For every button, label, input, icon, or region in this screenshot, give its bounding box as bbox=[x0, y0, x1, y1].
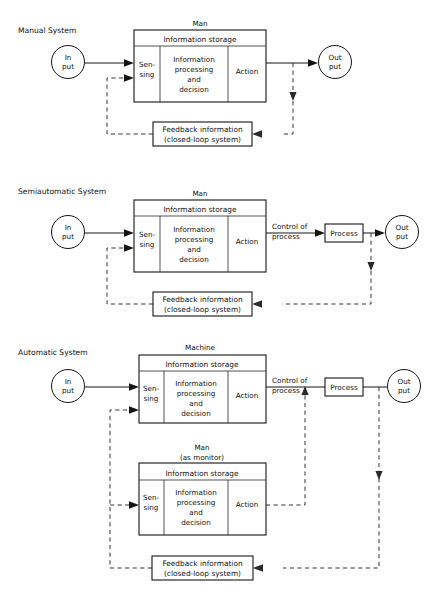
processing-line4-semiautomatic: decision bbox=[179, 255, 209, 264]
owner-label-semiautomatic: Man bbox=[192, 189, 207, 198]
processing-line1-machine-automatic: Information bbox=[175, 379, 217, 388]
action-label-manual: Action bbox=[236, 67, 259, 76]
feedback-line1-manual: Feedback information bbox=[162, 125, 243, 134]
processing-line1-manual: Information bbox=[173, 55, 215, 64]
action-label-semiautomatic: Action bbox=[236, 237, 259, 246]
output-line1-automatic: Out bbox=[397, 377, 410, 386]
sensing-line1-semiautomatic: Sen- bbox=[139, 230, 156, 239]
feedback-line2-semiautomatic: (closed-loop system) bbox=[164, 305, 241, 314]
action-label-monitor-automatic: Action bbox=[236, 500, 259, 509]
sensing-line2-semiautomatic: sing bbox=[140, 240, 155, 249]
input-line2-manual: put bbox=[62, 62, 74, 71]
diagram-canvas: Manual System Man Information storage Se… bbox=[0, 0, 432, 593]
sensing-line1-monitor-automatic: Sen- bbox=[143, 493, 160, 502]
processing-line4-monitor-automatic: decision bbox=[181, 518, 211, 527]
sensing-line2-manual: sing bbox=[140, 70, 155, 79]
storage-label-monitor-automatic: Information storage bbox=[165, 469, 239, 478]
system-title-manual: Manual System bbox=[18, 26, 76, 35]
processing-line4-manual: decision bbox=[179, 85, 209, 94]
processing-line2-machine-automatic: processing bbox=[177, 389, 216, 398]
input-line1-manual: In bbox=[65, 53, 72, 62]
processing-line3-monitor-automatic: and bbox=[189, 508, 203, 517]
output-line2-manual: put bbox=[329, 62, 341, 71]
system-title-semiautomatic: Semiautomatic System bbox=[18, 187, 106, 196]
processing-line3-semiautomatic: and bbox=[187, 245, 201, 254]
input-line2-semiautomatic: put bbox=[62, 232, 74, 241]
process-label-semiautomatic: Process bbox=[330, 229, 358, 238]
control-label-line1-automatic: Control of bbox=[272, 376, 308, 385]
monitor-owner-sub-label-automatic: (as monitor) bbox=[180, 453, 224, 462]
feedback-line1-semiautomatic: Feedback information bbox=[162, 295, 243, 304]
input-line1-automatic: In bbox=[65, 377, 72, 386]
processing-line2-manual: processing bbox=[175, 65, 214, 74]
processing-line1-monitor-automatic: Information bbox=[175, 488, 217, 497]
processing-line4-machine-automatic: decision bbox=[181, 409, 211, 418]
processing-line3-manual: and bbox=[187, 75, 201, 84]
process-label-automatic: Process bbox=[330, 383, 358, 392]
system-title-automatic: Automatic System bbox=[18, 348, 88, 357]
sensing-line2-monitor-automatic: sing bbox=[144, 503, 159, 512]
action-label-machine-automatic: Action bbox=[236, 391, 259, 400]
output-line2-automatic: put bbox=[398, 386, 410, 395]
sensing-line1-machine-automatic: Sen- bbox=[143, 384, 160, 393]
storage-label-machine-automatic: Information storage bbox=[165, 360, 239, 369]
processing-line2-semiautomatic: processing bbox=[175, 235, 214, 244]
feedback-line1-automatic: Feedback information bbox=[162, 559, 243, 568]
processing-line1-semiautomatic: Information bbox=[173, 225, 215, 234]
output-line1-semiautomatic: Out bbox=[395, 223, 408, 232]
owner-label-automatic: Machine bbox=[185, 343, 216, 352]
owner-label-manual: Man bbox=[192, 19, 207, 28]
output-line1-manual: Out bbox=[328, 53, 341, 62]
monitor-owner-label-automatic: Man bbox=[194, 443, 209, 452]
processing-line3-machine-automatic: and bbox=[189, 399, 203, 408]
input-line1-semiautomatic: In bbox=[65, 223, 72, 232]
processing-line2-monitor-automatic: processing bbox=[177, 498, 216, 507]
control-label-line1-semiautomatic: Control of bbox=[272, 222, 308, 231]
feedback-line2-manual: (closed-loop system) bbox=[164, 135, 241, 144]
output-line2-semiautomatic: put bbox=[396, 232, 408, 241]
storage-label-semiautomatic: Information storage bbox=[163, 205, 237, 214]
input-line2-automatic: put bbox=[62, 386, 74, 395]
storage-label-manual: Information storage bbox=[163, 35, 237, 44]
sensing-line1-manual: Sen- bbox=[139, 60, 156, 69]
sensing-line2-machine-automatic: sing bbox=[144, 394, 159, 403]
man-machine-system-diagram: Manual System Man Information storage Se… bbox=[0, 0, 432, 593]
feedback-line2-automatic: (closed-loop system) bbox=[164, 569, 241, 578]
